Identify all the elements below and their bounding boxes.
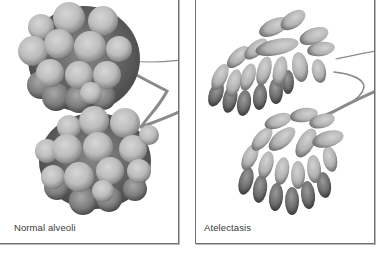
lower-collapsed-alveoli-cluster: [236, 106, 346, 215]
upper-alveoli-cluster: [18, 2, 140, 113]
normal-alveoli-panel: Normal alveoli: [0, 0, 179, 244]
upper-collapsed-alveoli-cluster: [205, 5, 336, 116]
normal-alveoli-illustration: [0, 0, 178, 243]
atelectasis-caption: Atelectasis: [204, 222, 251, 233]
atelectasis-panel: Atelectasis: [195, 0, 375, 244]
atelectasis-illustration: [196, 0, 374, 243]
normal-alveoli-caption: Normal alveoli: [14, 222, 76, 233]
lower-alveoli-cluster: [35, 106, 159, 215]
